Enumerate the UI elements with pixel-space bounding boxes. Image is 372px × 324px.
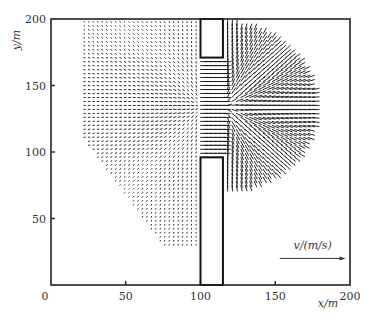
upper-breakwater-block xyxy=(201,19,223,58)
x-tick-label: 150 xyxy=(265,290,286,303)
velocity-legend-label: v/(m/s) xyxy=(293,239,331,252)
x-axis-label: x/m xyxy=(318,297,338,310)
quiver-chart: 05010015020050100150200 x/m y/m v/(m/s) xyxy=(0,0,372,324)
legend-arrowhead-icon xyxy=(340,256,346,260)
axis-tick-labels: 05010015020050100150200 xyxy=(25,13,361,303)
y-tick-label: 200 xyxy=(25,13,46,26)
x-tick-label: 100 xyxy=(190,290,211,303)
y-axis-label: y/m xyxy=(10,30,23,51)
breakwater-structure xyxy=(201,19,223,285)
lower-breakwater-block xyxy=(201,157,223,285)
x-tick-label: 0 xyxy=(42,290,49,303)
x-tick-label: 50 xyxy=(119,290,133,303)
velocity-legend: v/(m/s) xyxy=(280,239,346,260)
y-tick-label: 150 xyxy=(25,80,46,93)
y-tick-label: 50 xyxy=(32,213,46,226)
x-tick-label: 200 xyxy=(340,290,361,303)
y-tick-label: 100 xyxy=(25,146,46,159)
